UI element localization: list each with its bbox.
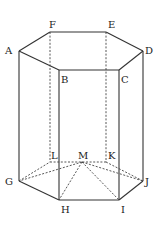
edge-de [106,32,143,51]
vertex-label-e: E [108,19,115,30]
vertex-label-k: K [108,150,116,161]
vertex-label-b: B [61,74,68,85]
hexagonal-prism-diagram: ABCDEFGHIJKLM [0,0,162,226]
vertex-label-c: C [121,74,129,85]
vertex-label-m: M [78,150,88,161]
hidden-dashed-edges [19,32,143,200]
vertex-label-d: D [145,45,153,56]
edge-gl [19,162,50,181]
vertex-label-j: J [144,176,149,187]
edge-cd [119,51,143,70]
edge-mj [82,162,143,181]
vertex-label-i: I [121,204,125,215]
vertex-label-f: F [49,19,56,30]
edge-fa [19,32,50,51]
vertex-labels: ABCDEFGHIJKLM [4,19,153,215]
vertex-label-l: L [51,150,58,161]
edge-kj [106,162,143,181]
edge-gh [19,181,59,200]
vertex-label-h: H [61,204,70,215]
edge-mh [59,162,82,200]
vertex-label-g: G [5,176,13,187]
vertex-label-a: A [4,45,13,56]
edge-ab [19,51,59,70]
edge-ij [119,181,143,200]
